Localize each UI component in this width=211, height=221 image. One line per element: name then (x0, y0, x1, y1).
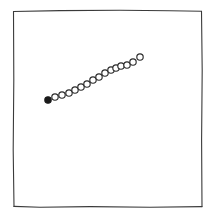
scatter-plot-canvas (0, 0, 211, 221)
data-point-marker (124, 62, 130, 68)
data-point-marker (102, 70, 108, 76)
data-point-marker (59, 92, 65, 98)
frame-right-edge (202, 11, 203, 206)
data-point-marker (130, 59, 136, 65)
data-point-marker (72, 87, 78, 93)
data-point-marker (118, 63, 124, 69)
data-point-marker (66, 90, 72, 96)
data-point-marker (45, 97, 51, 103)
data-point-marker (78, 84, 84, 90)
data-point-marker (52, 94, 58, 100)
data-point-marker (96, 74, 102, 80)
plot-background (0, 0, 211, 221)
figure-root (0, 0, 211, 221)
frame-left-edge (13, 12, 14, 207)
data-point-marker (137, 54, 143, 60)
data-point-marker (84, 81, 90, 87)
data-point-marker (90, 77, 96, 83)
